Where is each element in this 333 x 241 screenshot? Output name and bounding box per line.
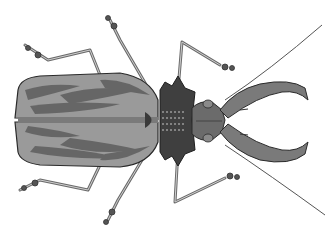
beetle-illustration: Beetle illustration (top-down view)	[0, 0, 333, 241]
head	[192, 100, 225, 142]
elytra	[15, 73, 158, 167]
pronotum	[160, 76, 195, 166]
antennae	[225, 25, 325, 215]
beetle-drawing	[0, 0, 333, 241]
